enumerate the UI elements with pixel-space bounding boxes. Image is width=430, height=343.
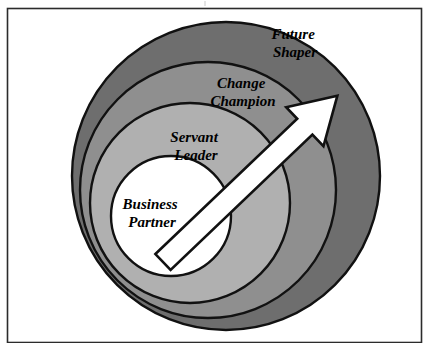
label-change-champion-line-0: Change: [217, 75, 266, 91]
maturity-spiral-diagram: Future Shaper Change Champion Servant Le…: [0, 0, 430, 343]
diagram-canvas: Future Shaper Change Champion Servant Le…: [0, 0, 430, 343]
label-servant-leader-line-0: Servant: [170, 129, 218, 145]
label-business-partner-line-1: Partner: [128, 214, 176, 230]
label-future-shaper-line-0: Future: [270, 26, 315, 42]
label-change-champion-line-1: Champion: [210, 93, 275, 109]
label-business-partner-line-0: Business: [122, 196, 178, 212]
label-future-shaper-line-1: Shaper: [273, 44, 317, 60]
spiral-bands: [72, 22, 380, 330]
label-servant-leader-line-1: Leader: [173, 147, 217, 163]
